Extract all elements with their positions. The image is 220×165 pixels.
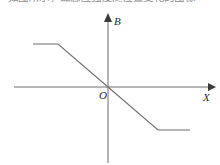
x-axis-label: X	[202, 91, 211, 103]
x-axis-arrowhead-icon	[208, 83, 216, 91]
figure-screenshot: 如图所示，磁感应强度随位置变化的图像 B X O	[0, 0, 220, 165]
magnetic-field-vs-position-graph: B X O	[0, 0, 220, 165]
origin-label: O	[99, 89, 107, 101]
y-axis-arrowhead-icon	[104, 13, 112, 22]
y-axis-label: B	[114, 15, 121, 27]
